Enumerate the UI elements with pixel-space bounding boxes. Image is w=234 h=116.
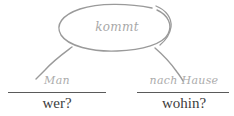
- subject-question-label: wer?: [8, 94, 106, 112]
- adverbial-question-label: wohin?: [138, 94, 230, 112]
- verb-label: kommt: [62, 20, 172, 34]
- subject-phrase-label: Man: [8, 74, 106, 87]
- sentence-diagram: kommt Man wer? nach Hause wohin?: [0, 0, 234, 116]
- adverbial-phrase-label: nach Hause: [138, 74, 230, 87]
